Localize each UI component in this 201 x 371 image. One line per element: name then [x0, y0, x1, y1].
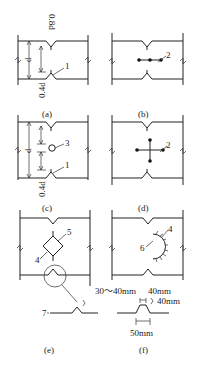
dim-0.8d-label: 0.8d: [47, 14, 57, 30]
caption-d: (d): [138, 203, 149, 213]
callout-4: 4: [168, 224, 173, 234]
caption-a: (a): [42, 109, 52, 119]
callout-2: 2: [166, 50, 171, 60]
dim-d-label: d: [23, 148, 33, 153]
callout-7: 7: [42, 308, 47, 318]
caption-b: (b): [138, 109, 149, 119]
dim-height-label: 40mm: [157, 296, 180, 306]
panel-d: 2 (d): [109, 115, 186, 213]
panel-c: d 3 1 0.4d (c): [15, 115, 91, 213]
caption-c: (c): [42, 203, 52, 213]
panel-e: 5 4 7 (e): [17, 210, 98, 355]
callout-4: 4: [35, 255, 40, 265]
caption-e: (e): [44, 345, 54, 355]
dim-width-top-label: 40mm: [148, 286, 171, 296]
dim-0.4d-label: 0.4d: [37, 181, 47, 197]
dim-width-base-label: 50mm: [130, 328, 153, 338]
callout-3: 3: [65, 138, 70, 148]
caption-f: (f): [139, 345, 148, 355]
panel-a: d 0.8d 0.4d 1 (a): [15, 14, 91, 119]
panel-f: 4 6 30～40mm 40mm 40mm 50mm (f): [95, 210, 186, 355]
panel-b: 2 (b): [109, 33, 186, 119]
dim-0.4d-label: 0.4d: [37, 82, 47, 98]
callout-1: 1: [65, 61, 70, 71]
callout-1: 1: [65, 160, 70, 170]
callout-6: 6: [140, 243, 145, 253]
figure: d 0.8d 0.4d 1 (a) 2 (b): [0, 0, 201, 371]
dim-range-label: 30～40mm: [95, 286, 136, 296]
callout-5: 5: [67, 227, 72, 237]
dim-d-label: d: [23, 57, 33, 62]
callout-2: 2: [166, 140, 171, 150]
